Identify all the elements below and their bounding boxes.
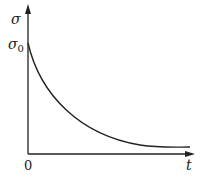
y-axis-label: σ [11, 11, 21, 27]
origin-label: 0 [24, 158, 32, 173]
sigma0-main: σ [8, 36, 18, 52]
sigma0-sub: 0 [18, 43, 24, 54]
decay-curve [28, 43, 190, 147]
chart-canvas: σ σ0 0 t [0, 0, 205, 180]
x-axis-label: t [186, 157, 192, 173]
sigma0-label: σ0 [8, 36, 24, 54]
y-axis-arrow-icon [25, 4, 31, 14]
